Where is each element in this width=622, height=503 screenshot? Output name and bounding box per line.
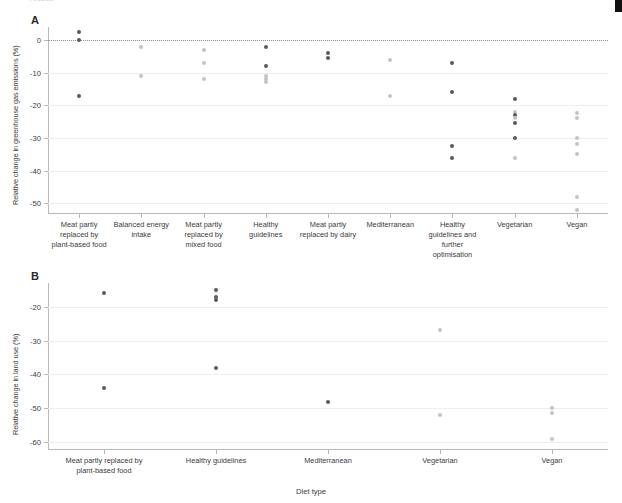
y-gridline [48,105,608,106]
x-axis-title: Diet type [0,487,622,496]
y-axis-tick [44,442,48,443]
data-point [264,80,268,84]
y-axis-tick-label: -50 [8,404,41,413]
data-point [450,156,454,160]
data-point [139,45,143,49]
y-axis-tick-label: -10 [8,68,41,77]
data-point [77,38,81,42]
x-axis-tick [216,450,217,454]
y-gridline [48,341,608,342]
data-point [450,90,454,94]
data-point [575,208,579,212]
x-axis-tick [266,214,267,218]
y-axis-tick-label: -20 [8,101,41,110]
data-point [326,51,330,55]
data-point [575,111,579,115]
y-gridline [48,73,608,74]
y-axis-line [48,27,49,213]
data-point [77,94,81,98]
x-axis-tick [79,214,80,218]
x-axis-category-label: Meat partly replaced by mixed food [175,220,233,250]
data-point [575,152,579,156]
y-axis-tick [44,341,48,342]
y-gridline [48,307,608,308]
data-point [202,48,206,52]
data-point [264,45,268,49]
data-point [438,328,442,332]
y-axis-tick-label: -30 [8,336,41,345]
panel-a: A Relative change in greenhouse gas emis… [0,7,622,265]
y-axis-tick [44,307,48,308]
x-axis-category-label: Healthy guidelines [168,456,264,466]
y-axis-tick [44,73,48,74]
data-point [575,116,579,120]
data-point [264,64,268,68]
y-axis-tick [44,374,48,375]
x-axis-category-label: Vegan [504,456,600,466]
figure-root: Articles A Relative change in greenhouse… [0,0,622,503]
data-point [388,94,392,98]
data-point [388,58,392,62]
y-axis-tick-label: -60 [8,438,41,447]
panel-b-y-axis-label: Relative change in land use (%) [11,334,20,435]
x-axis-tick [452,214,453,218]
y-axis-tick [44,105,48,106]
data-point [450,61,454,65]
x-axis-tick [204,214,205,218]
x-axis-category-label: Mediterranean [361,220,419,230]
y-gridline [48,171,608,172]
panel-b-plot-area [48,283,608,449]
x-axis-tick [577,214,578,218]
x-axis-tick [328,214,329,218]
data-point [513,156,517,160]
y-gridline [48,374,608,375]
data-point [450,144,454,148]
x-axis-category-label: Mediterranean [280,456,376,466]
x-axis-tick [141,214,142,218]
x-axis-tick [104,450,105,454]
y-gridline [48,408,608,409]
data-point [202,77,206,81]
x-axis-tick [440,450,441,454]
panel-a-plot-area [48,27,608,213]
data-point [438,413,442,417]
y-axis-tick [44,138,48,139]
x-axis-category-label: Vegetarian [392,456,488,466]
data-point [550,437,554,441]
panel-b-letter: B [31,270,39,282]
y-axis-line [48,283,49,449]
data-point [214,298,218,302]
data-point [575,136,579,140]
panel-a-letter: A [31,14,39,26]
data-point [102,291,106,295]
data-point [202,61,206,65]
x-axis-tick [390,214,391,218]
y-axis-tick [44,203,48,204]
x-axis-category-label: Meat partly replaced by plant-based food [56,456,152,476]
y-axis-tick-label: -50 [8,199,41,208]
y-axis-tick-label: -20 [8,302,41,311]
y-axis-tick-label: -30 [8,133,41,142]
x-axis-tick [552,450,553,454]
data-point [513,121,517,125]
y-gridline [48,203,608,204]
x-axis-category-label: Vegetarian [486,220,544,230]
data-point [77,30,81,34]
data-point [550,411,554,415]
data-point [139,74,143,78]
data-point [575,142,579,146]
x-axis-category-label: Healthy guidelines and further optimisat… [423,220,481,260]
y-gridline [48,138,608,139]
y-axis-tick-label: -40 [8,370,41,379]
data-point [326,56,330,60]
x-axis-category-label: Meat partly replaced by dairy [299,220,357,240]
zero-reference-line [48,40,608,41]
x-axis-category-label: Balanced energy intake [112,220,170,240]
data-point [214,366,218,370]
x-axis-tick [328,450,329,454]
x-axis-tick [515,214,516,218]
data-point [102,386,106,390]
data-point [550,406,554,410]
x-axis-category-label: Meat partly replaced by plant-based food [50,220,108,250]
data-point [513,116,517,120]
